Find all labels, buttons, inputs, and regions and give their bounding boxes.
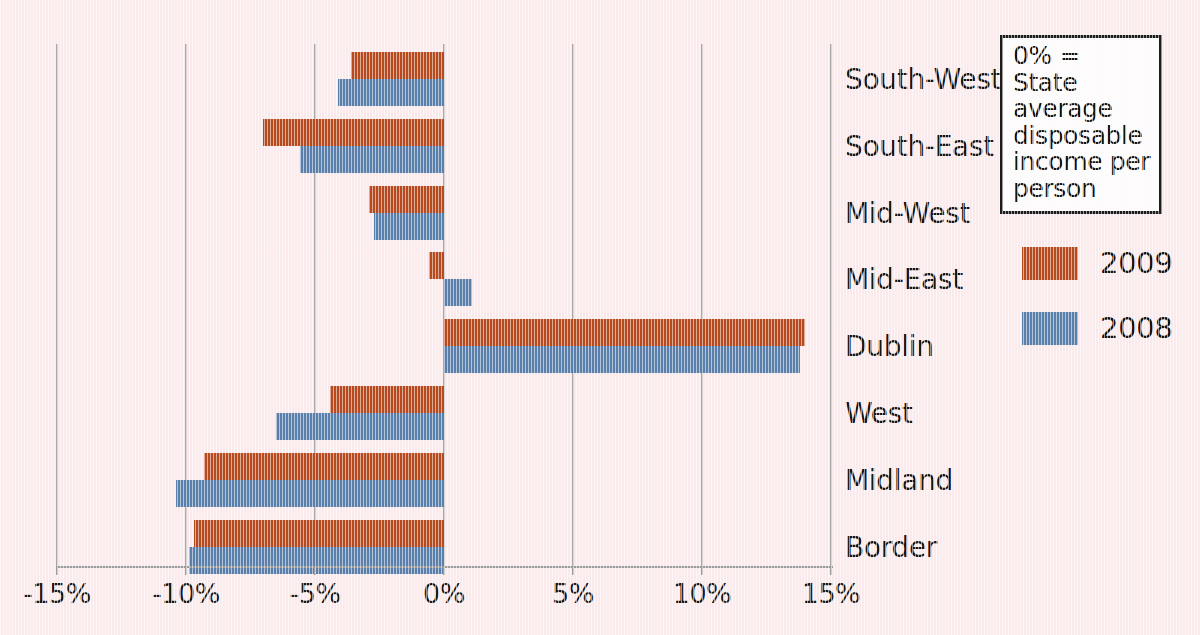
bar-border-2009 — [194, 520, 444, 547]
note-box: 0% = State average disposable income per… — [1000, 35, 1162, 214]
legend-entry-2008: 2008 — [1022, 311, 1173, 345]
bar-mid-west-2008 — [374, 213, 444, 240]
category-label-dublin: Dublin — [845, 330, 934, 363]
legend-label-2008: 2008 — [1100, 311, 1173, 345]
category-label-midland: Midland — [845, 463, 953, 496]
x-axis-tick — [830, 566, 832, 575]
x-axis-line — [57, 566, 833, 568]
bar-dublin-2008 — [444, 346, 800, 373]
x-axis-tick — [701, 566, 703, 575]
note-text: 0% = State average disposable income per… — [1013, 43, 1151, 202]
bar-chart: -15%-10%-5%0%5%10%15% South-WestSouth-Ea… — [0, 0, 1200, 635]
bar-south-west-2008 — [338, 79, 444, 106]
legend-entry-2009: 2009 — [1022, 246, 1173, 280]
category-label-mid-east: Mid-East — [845, 263, 963, 296]
category-label-border: Border — [845, 530, 937, 563]
bar-mid-east-2009 — [429, 252, 444, 279]
gridline — [572, 44, 574, 568]
x-axis-tick — [185, 566, 187, 575]
gridline — [701, 44, 703, 568]
x-axis-tick-label: 10% — [673, 578, 732, 609]
bar-dublin-2009 — [444, 319, 805, 346]
x-axis-tick — [572, 566, 574, 575]
bar-midland-2008 — [176, 480, 444, 507]
x-axis-tick-label: -10% — [152, 578, 220, 609]
gridline — [56, 44, 58, 568]
category-label-west: West — [845, 397, 913, 430]
bar-south-west-2009 — [351, 52, 444, 79]
x-axis-tick-label: -5% — [289, 578, 340, 609]
bar-mid-east-2008 — [444, 279, 472, 306]
legend-swatch-2009 — [1022, 247, 1078, 280]
x-axis-tick-label: 0% — [423, 578, 465, 609]
category-label-mid-west: Mid-West — [845, 196, 970, 229]
x-axis-tick-label: -15% — [23, 578, 91, 609]
legend-swatch-2008 — [1022, 312, 1078, 345]
gridline — [830, 44, 832, 568]
x-axis-tick-label: 15% — [802, 578, 861, 609]
bar-west-2008 — [276, 413, 444, 440]
bar-border-2008 — [189, 547, 444, 574]
x-axis-tick-label: 5% — [552, 578, 594, 609]
bar-mid-west-2009 — [369, 186, 444, 213]
bar-south-east-2008 — [300, 146, 444, 173]
x-axis-tick — [314, 566, 316, 575]
bar-midland-2009 — [204, 453, 444, 480]
x-axis-tick — [443, 566, 445, 575]
x-axis-tick — [56, 566, 58, 575]
plot-area — [57, 44, 831, 568]
category-label-south-east: South-East — [845, 129, 994, 162]
legend-label-2009: 2009 — [1100, 246, 1173, 280]
category-label-south-west: South-West — [845, 63, 1001, 96]
bar-west-2009 — [330, 386, 444, 413]
bar-south-east-2009 — [263, 119, 444, 146]
